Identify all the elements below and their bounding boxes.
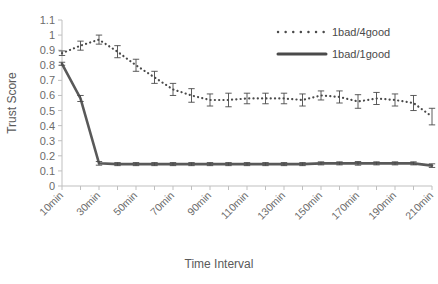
- x-axis-tick-label: 10min: [37, 189, 66, 218]
- error-bar: [170, 83, 176, 95]
- y-axis-tick-label: 0.1: [40, 165, 55, 177]
- y-axis-tick-label: 0: [49, 180, 55, 192]
- error-bar: [133, 59, 139, 71]
- x-axis-tick-label: 170min: [329, 189, 362, 222]
- x-axis-title: Time Interval: [185, 257, 254, 271]
- error-bar: [373, 92, 379, 104]
- y-axis-tick-label: 0.6: [40, 89, 55, 101]
- x-axis-tick-label: 150min: [292, 189, 325, 222]
- series-2: [59, 62, 435, 167]
- chart-container: 00.10.20.30.40.50.60.70.80.911.110min30m…: [0, 0, 438, 284]
- error-bar: [96, 35, 102, 44]
- x-axis-tick-label: 90min: [185, 189, 214, 218]
- y-axis-title: Trust Score: [5, 72, 19, 134]
- x-axis-tick-label: 130min: [255, 189, 288, 222]
- error-bar: [59, 51, 65, 56]
- error-bar: [151, 71, 157, 83]
- x-axis-tick-label: 70min: [148, 189, 177, 218]
- x-axis-tick-label: 190min: [366, 189, 399, 222]
- x-axis-tick-label: 30min: [74, 189, 103, 218]
- y-axis-tick-label: 0.3: [40, 135, 55, 147]
- y-axis-tick-label: 0.5: [40, 105, 55, 117]
- y-axis-tick-label: 0.8: [40, 59, 55, 71]
- error-bar: [281, 93, 287, 104]
- legend-label-1bad/1good: 1bad/1good: [332, 48, 390, 60]
- error-bar: [429, 108, 435, 125]
- legend-label-1bad/4good: 1bad/4good: [332, 26, 390, 38]
- y-axis-tick-label: 1.1: [40, 14, 55, 26]
- y-axis-tick-label: 0.4: [40, 120, 55, 132]
- error-bar: [318, 91, 324, 100]
- y-axis-tick-label: 0.9: [40, 44, 55, 56]
- series-line-1bad/1good: [62, 64, 432, 166]
- x-axis-tick-label: 110min: [218, 189, 250, 221]
- y-axis-tick-label: 1: [49, 29, 55, 41]
- error-bar: [207, 94, 213, 106]
- trust-score-line-chart: 00.10.20.30.40.50.60.70.80.911.110min30m…: [0, 0, 438, 284]
- y-axis-tick-label: 0.2: [40, 150, 55, 162]
- error-bar: [336, 91, 342, 103]
- error-bar: [114, 46, 120, 58]
- x-axis-tick-label: 50min: [111, 189, 140, 218]
- y-axis-tick-label: 0.7: [40, 74, 55, 86]
- x-axis-tick-label: 210min: [403, 189, 436, 222]
- error-bar: [225, 93, 231, 107]
